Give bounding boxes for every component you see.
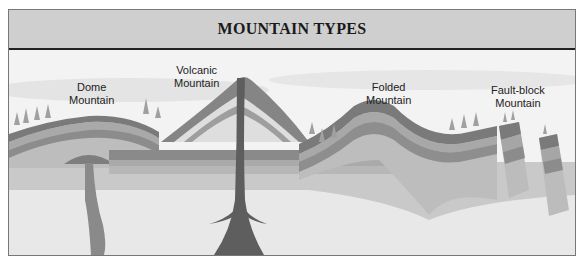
- title-bar: MOUNTAIN TYPES: [9, 10, 575, 50]
- diagram-title: MOUNTAIN TYPES: [218, 20, 367, 38]
- label-fault-block-mountain: Fault-block Mountain: [491, 84, 545, 110]
- label-folded-mountain: Folded Mountain: [366, 81, 411, 107]
- label-volcanic-mountain: Volcanic Mountain: [174, 64, 219, 90]
- label-dome-mountain: Dome Mountain: [69, 81, 114, 107]
- diagram-frame: MOUNTAIN TYPES: [8, 9, 576, 256]
